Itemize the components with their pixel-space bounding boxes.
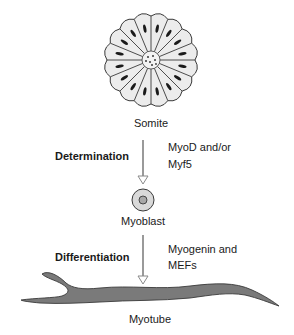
differentiation-factors-line1: Myogenin and bbox=[168, 243, 237, 255]
determination-arrow-icon bbox=[138, 140, 148, 184]
myoblast-label: Myoblast bbox=[121, 215, 165, 227]
differentiation-factors-line2: MEFs bbox=[168, 259, 197, 271]
diagram-canvas bbox=[0, 0, 294, 335]
myoblast-cell-icon bbox=[132, 189, 154, 211]
somite-label: Somite bbox=[134, 117, 168, 129]
differentiation-label: Differentiation bbox=[55, 251, 130, 263]
differentiation-arrow-icon bbox=[138, 235, 148, 284]
determination-label: Determination bbox=[55, 150, 129, 162]
determination-factors-line2: Myf5 bbox=[168, 158, 192, 170]
myotube-label: Myotube bbox=[129, 313, 171, 325]
somite-icon bbox=[105, 14, 198, 107]
myotube-fiber-icon bbox=[21, 273, 279, 306]
determination-factors-line1: MyoD and/or bbox=[168, 141, 231, 153]
